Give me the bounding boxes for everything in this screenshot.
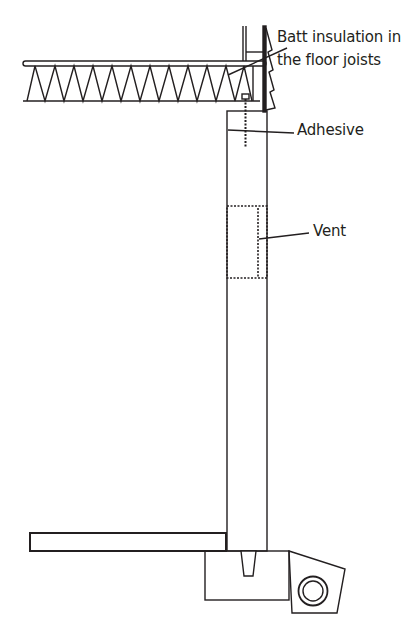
- batt-insulation: [23, 66, 260, 101]
- label-vent: Vent: [313, 224, 346, 239]
- label-adhesive: Adhesive: [297, 123, 364, 138]
- drain-pipe: [289, 551, 345, 613]
- siding-shingles: [266, 28, 275, 110]
- label-batt-insulation-line2: the floor joists: [277, 53, 381, 68]
- footing: [205, 551, 289, 600]
- label-batt-insulation-line1: Batt insulation in: [277, 30, 401, 45]
- basement-slab: [30, 533, 226, 551]
- anchor-bolt: [242, 94, 249, 148]
- wall-section-diagram: [0, 0, 415, 638]
- adhesive-leader-line: [228, 130, 294, 133]
- subfloor: [23, 61, 266, 66]
- foundation-wall: [227, 111, 267, 551]
- vent-opening: [227, 206, 267, 278]
